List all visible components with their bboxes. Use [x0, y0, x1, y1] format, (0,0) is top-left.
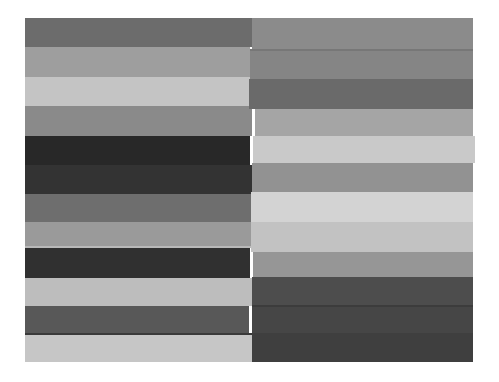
stripe-band: [252, 277, 473, 305]
right-stripe-stack: [0, 0, 499, 382]
stripe-band: [253, 136, 475, 163]
band-seam-line: [252, 305, 473, 307]
stripe-band: [252, 163, 473, 192]
stripe-band: [251, 192, 473, 222]
stripe-band: [252, 18, 473, 49]
stripe-band: [255, 109, 473, 136]
stripe-band: [250, 49, 473, 79]
stripe-band: [249, 79, 473, 109]
stripe-band: [252, 333, 473, 362]
stripe-band: [251, 222, 473, 252]
stripe-band: [252, 305, 473, 333]
stripe-band: [253, 252, 473, 277]
photo-canvas: [0, 0, 499, 382]
band-seam-line: [250, 49, 473, 51]
